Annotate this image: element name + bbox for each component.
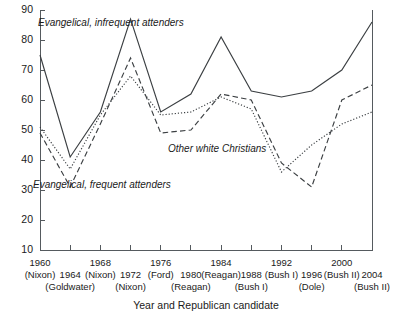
y-tick-label: 30: [21, 183, 33, 195]
x-tick-year: 1980: [180, 269, 201, 280]
series-label: Evangelical, infrequent attenders: [38, 17, 184, 28]
y-tick-label: 80: [21, 33, 33, 45]
x-tick-year: 1996: [301, 269, 322, 280]
x-tick-candidate: (Reagan): [171, 281, 211, 292]
series-line-dashed: [40, 58, 372, 187]
x-axis-tick-labels: 1960(Nixon)1964(Goldwater)1968(Nixon)197…: [25, 257, 390, 292]
y-tick-label: 90: [21, 3, 33, 15]
x-axis-title: Year and Republican candidate: [133, 299, 279, 311]
y-tick-label: 60: [21, 93, 33, 105]
x-tick-candidate: (Bush II): [354, 281, 390, 292]
axes: [40, 10, 372, 250]
line-chart: 102030405060708090 1960(Nixon)1964(Goldw…: [0, 0, 412, 321]
series-label: Other white Christians: [168, 143, 266, 154]
x-tick-candidate: (Dole): [299, 281, 325, 292]
x-tick-year: 1984: [211, 257, 232, 268]
x-tick-year: 1976: [150, 257, 171, 268]
x-tick-year: 1968: [90, 257, 111, 268]
y-axis-ticks: 102030405060708090: [21, 3, 45, 255]
x-axis-ticks: [40, 245, 372, 250]
y-tick-label: 50: [21, 123, 33, 135]
x-tick-year: 1964: [60, 269, 81, 280]
y-tick-label: 40: [21, 153, 33, 165]
y-tick-label: 70: [21, 63, 33, 75]
x-tick-year: 2000: [331, 257, 352, 268]
x-tick-year: 1972: [120, 269, 141, 280]
x-tick-candidate: (Nixon): [25, 269, 56, 280]
y-tick-label: 20: [21, 213, 33, 225]
x-tick-candidate: (Bush I): [235, 281, 268, 292]
x-tick-year: 1992: [271, 257, 292, 268]
x-tick-year: 1960: [29, 257, 50, 268]
chart-container: 102030405060708090 1960(Nixon)1964(Goldw…: [0, 0, 412, 321]
x-tick-candidate: (Bush I): [265, 269, 298, 280]
y-tick-label: 10: [21, 243, 33, 255]
x-tick-candidate: (Bush II): [324, 269, 360, 280]
x-tick-candidate: (Ford): [148, 269, 174, 280]
x-tick-year: 2004: [361, 269, 382, 280]
x-tick-candidate: (Nixon): [85, 269, 116, 280]
series-label: Evangelical, frequent attenders: [33, 179, 171, 190]
x-tick-candidate: (Goldwater): [45, 281, 95, 292]
x-tick-candidate: (Nixon): [115, 281, 146, 292]
x-axis-title-label: Year and Republican candidate: [133, 299, 279, 311]
x-tick-candidate: (Reagan): [201, 269, 241, 280]
series-annotations: Evangelical, infrequent attendersEvangel…: [33, 17, 266, 190]
series-lines: [40, 19, 372, 187]
series-line-solid: [40, 19, 372, 157]
x-tick-year: 1988: [241, 269, 262, 280]
plot-frame: [40, 10, 372, 250]
